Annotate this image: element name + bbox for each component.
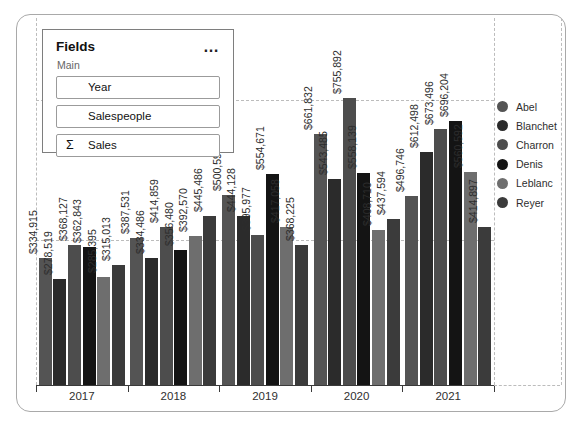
sigma-icon: Σ bbox=[66, 135, 74, 156]
bar-value-label: $362,843 bbox=[71, 199, 83, 243]
bar-value-label: $334,486 bbox=[134, 210, 146, 254]
bar-leblanc-2019[interactable] bbox=[280, 227, 293, 385]
bar-value-label: $334,915 bbox=[27, 210, 39, 254]
field-label: Salespeople bbox=[88, 106, 151, 127]
bar-value-label: $368,127 bbox=[57, 197, 69, 241]
x-axis-tick bbox=[219, 386, 220, 392]
x-axis-label-2020: 2020 bbox=[344, 390, 370, 402]
bar-value-label: $696,204 bbox=[438, 73, 450, 117]
bar-blanchet-2017[interactable] bbox=[53, 279, 66, 385]
fields-section-label: Main bbox=[57, 59, 220, 71]
canvas-right-guide bbox=[561, 18, 562, 385]
field-pill-year[interactable]: Year bbox=[56, 76, 220, 99]
report-canvas: $334,915$278,519$368,127$362,843$285,395… bbox=[0, 0, 579, 429]
field-label: Sales bbox=[88, 135, 117, 156]
bar-value-label: $368,225 bbox=[284, 197, 296, 241]
x-axis-tick bbox=[311, 386, 312, 392]
bar-charron-2019[interactable] bbox=[251, 235, 264, 385]
bar-charron-2021[interactable] bbox=[434, 129, 447, 385]
legend-item-reyer[interactable]: Reyer bbox=[497, 193, 557, 212]
legend-color-dot bbox=[497, 139, 508, 150]
bar-value-label: $437,594 bbox=[375, 171, 387, 215]
bar-value-label: $444,128 bbox=[225, 168, 237, 212]
bar-reyer-2019[interactable] bbox=[295, 245, 308, 385]
bar-value-label: $285,395 bbox=[86, 229, 98, 273]
bar-charron-2017[interactable] bbox=[68, 245, 81, 385]
bar-leblanc-2018[interactable] bbox=[189, 236, 202, 385]
bar-reyer-2021[interactable] bbox=[478, 227, 491, 385]
bar-value-label: $392,570 bbox=[177, 188, 189, 232]
bar-charron-2018[interactable] bbox=[160, 227, 173, 385]
bar-blanchet-2021[interactable] bbox=[420, 152, 433, 385]
bar-abel-2018[interactable] bbox=[130, 238, 143, 385]
x-axis-tick bbox=[128, 386, 129, 392]
fields-panel-title: Fields bbox=[56, 39, 95, 54]
x-axis-label-2017: 2017 bbox=[69, 390, 95, 402]
bar-value-label: $554,671 bbox=[254, 126, 266, 170]
legend-color-dot bbox=[497, 197, 508, 208]
bar-value-label: $414,859 bbox=[148, 179, 160, 223]
bar-denis-2018[interactable] bbox=[174, 250, 187, 385]
x-axis-tick bbox=[402, 386, 403, 392]
legend-label: Abel bbox=[516, 101, 537, 113]
bar-value-label: $445,486 bbox=[192, 168, 204, 212]
legend-label: Leblanc bbox=[516, 177, 553, 189]
bar-value-label: $315,013 bbox=[100, 217, 112, 261]
chart-legend: AbelBlanchetCharronDenisLeblancReyer bbox=[497, 97, 557, 212]
bar-value-label: $356,480 bbox=[163, 202, 175, 246]
legend-label: Charron bbox=[516, 139, 554, 151]
bar-reyer-2020[interactable] bbox=[387, 219, 400, 385]
bar-value-label: $414,897 bbox=[467, 179, 479, 223]
more-options-icon[interactable]: … bbox=[203, 42, 220, 52]
bar-blanchet-2018[interactable] bbox=[145, 258, 158, 385]
legend-label: Blanchet bbox=[516, 120, 557, 132]
bar-value-label: $387,531 bbox=[119, 190, 131, 234]
bar-value-label: $395,977 bbox=[240, 187, 252, 231]
legend-item-denis[interactable]: Denis bbox=[497, 155, 557, 174]
bar-value-label: $408,710 bbox=[361, 182, 373, 226]
bar-value-label: $496,746 bbox=[394, 148, 406, 192]
plot-left-guide bbox=[36, 18, 37, 385]
legend-item-charron[interactable]: Charron bbox=[497, 135, 557, 154]
legend-label: Denis bbox=[516, 158, 543, 170]
field-list: YearSalespeopleΣSales bbox=[56, 76, 220, 157]
bar-blanchet-2020[interactable] bbox=[328, 179, 341, 385]
x-axis-tick bbox=[36, 386, 37, 392]
bar-value-label: $543,485 bbox=[317, 131, 329, 175]
bar-leblanc-2020[interactable] bbox=[372, 230, 385, 385]
x-axis-line bbox=[36, 385, 494, 386]
bar-value-label: $661,832 bbox=[302, 86, 314, 130]
legend-item-blanchet[interactable]: Blanchet bbox=[497, 116, 557, 135]
legend-color-dot bbox=[497, 101, 508, 112]
legend-item-leblanc[interactable]: Leblanc bbox=[497, 174, 557, 193]
legend-color-dot bbox=[497, 120, 508, 131]
field-pill-sales[interactable]: ΣSales bbox=[56, 134, 220, 157]
bar-blanchet-2019[interactable] bbox=[237, 216, 250, 385]
bar-value-label: $558,139 bbox=[346, 125, 358, 169]
plot-right-guide bbox=[494, 18, 495, 385]
legend-color-dot bbox=[497, 159, 508, 170]
legend-color-dot bbox=[497, 178, 508, 189]
bar-abel-2017[interactable] bbox=[39, 258, 52, 385]
x-axis-dashed-extension bbox=[494, 385, 560, 386]
bar-value-label: $755,892 bbox=[331, 50, 343, 94]
x-axis-label-2021: 2021 bbox=[435, 390, 461, 402]
legend-item-abel[interactable]: Abel bbox=[497, 97, 557, 116]
bar-value-label: $417,058 bbox=[269, 179, 281, 223]
bar-value-label: $673,496 bbox=[423, 81, 435, 125]
field-pill-salespeople[interactable]: Salespeople bbox=[56, 105, 220, 128]
bar-abel-2021[interactable] bbox=[405, 196, 418, 385]
bar-value-label: $278,519 bbox=[42, 231, 54, 275]
x-axis-tick bbox=[494, 386, 495, 392]
fields-panel: Fields … Main YearSalespeopleΣSales bbox=[42, 29, 234, 153]
bar-leblanc-2017[interactable] bbox=[97, 277, 110, 385]
x-axis-label-2019: 2019 bbox=[252, 390, 278, 402]
fields-panel-header: Fields … bbox=[56, 39, 220, 54]
bar-reyer-2017[interactable] bbox=[112, 265, 125, 385]
field-label: Year bbox=[88, 77, 111, 98]
bar-reyer-2018[interactable] bbox=[203, 216, 216, 385]
legend-label: Reyer bbox=[516, 197, 544, 209]
bar-value-label: $560,592 bbox=[452, 124, 464, 168]
bar-abel-2019[interactable] bbox=[222, 195, 235, 385]
bar-value-label: $612,498 bbox=[408, 104, 420, 148]
